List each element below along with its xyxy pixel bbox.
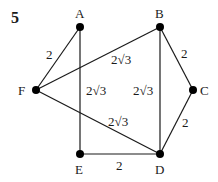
node-label-c: C	[200, 84, 209, 97]
edge-label-f-a: 2	[46, 48, 53, 61]
node-label-d: D	[155, 163, 164, 176]
edge-label-f-b: 2√3	[111, 53, 131, 66]
edge-label-a-e: 2√3	[86, 84, 106, 97]
node-label-b: B	[155, 7, 164, 20]
edge-label-f-d: 2√3	[108, 115, 128, 128]
edge-label-b-d: 2√3	[133, 84, 153, 97]
node-label-a: A	[75, 7, 84, 20]
edge-b-c	[160, 27, 193, 90]
edge-label-e-d: 2	[116, 159, 123, 172]
node-d-dot	[156, 150, 164, 158]
node-label-e: E	[75, 163, 83, 176]
edge-label-c-d: 2	[182, 116, 189, 129]
weighted-graph	[0, 0, 218, 182]
node-c-dot	[189, 86, 197, 94]
node-e-dot	[76, 150, 84, 158]
node-label-f: F	[18, 84, 25, 97]
node-f-dot	[32, 86, 40, 94]
node-a-dot	[76, 23, 84, 31]
edge-f-d	[36, 90, 160, 154]
edge-f-a	[36, 27, 80, 90]
edge-f-b	[36, 27, 160, 90]
node-b-dot	[156, 23, 164, 31]
edge-label-b-c: 2	[181, 47, 188, 60]
